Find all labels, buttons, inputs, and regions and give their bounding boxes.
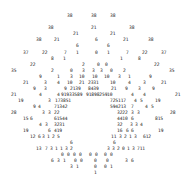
number-label: 3 — [138, 86, 141, 91]
number-label: 2 — [51, 68, 54, 73]
number-label: 0 — [95, 152, 98, 157]
number-label: 4 — [131, 92, 134, 97]
number-label: 38 — [91, 13, 96, 18]
number-label: 3222 — [117, 110, 128, 115]
number-label: 3 — [44, 86, 47, 91]
number-label: 3 — [100, 68, 103, 73]
number-label: 6 — [38, 134, 41, 139]
number-label: 7 — [131, 104, 134, 109]
number-label: 8 — [51, 56, 54, 61]
number-label: 419 — [54, 128, 62, 133]
number-label: 2 — [52, 134, 55, 139]
number-grid-figure: 3838383821382121382162138663722710172237… — [0, 0, 189, 183]
number-label: 3 — [134, 134, 137, 139]
number-label: 1 — [57, 74, 60, 79]
number-label: 1 — [55, 146, 58, 151]
number-label: 28 — [170, 110, 175, 115]
number-label: 21 — [79, 80, 84, 85]
number-label: 1 — [120, 56, 123, 61]
number-label: 21 — [54, 37, 59, 42]
number-label: 21 — [110, 31, 115, 36]
number-label: 22 — [154, 62, 159, 67]
number-label: 1 — [76, 164, 79, 169]
number-label: 19 — [155, 98, 160, 103]
number-label: 0 — [106, 158, 109, 163]
number-label: 21 — [123, 37, 128, 42]
number-label: 19 — [18, 98, 23, 103]
number-label: 15 — [23, 116, 28, 121]
number-label: 4 — [39, 92, 42, 97]
number-label: 2 — [123, 68, 126, 73]
number-label: 3 — [48, 110, 51, 115]
number-label: 0 — [79, 152, 82, 157]
number-label: 10 — [67, 80, 72, 85]
number-label: 6 — [70, 140, 73, 145]
number-label: 11 — [111, 134, 116, 139]
number-label: 21 — [111, 86, 116, 91]
number-label: 38 — [148, 37, 153, 42]
number-label: 91898259 — [86, 92, 107, 97]
number-label: 21 — [161, 80, 166, 85]
number-label: 22 — [30, 62, 35, 67]
number-label: 3 — [112, 146, 115, 151]
number-label: 37 — [23, 50, 28, 55]
number-label: 10 — [107, 92, 112, 97]
number-label: 3 — [107, 146, 110, 151]
number-label: 10 — [79, 74, 84, 79]
number-label: 0 — [73, 152, 76, 157]
number-label: 22 — [142, 50, 147, 55]
number-label: 3 — [70, 74, 73, 79]
number-label: 5 — [151, 104, 154, 109]
number-label: 3 — [125, 158, 128, 163]
number-label: 8439 — [88, 86, 99, 91]
number-label: 3 — [119, 134, 122, 139]
number-label: 3 — [143, 80, 146, 85]
number-label: 725117 — [110, 98, 126, 103]
number-label: 2139 — [70, 86, 81, 91]
number-label: 4 — [39, 122, 42, 127]
number-label: 3 — [45, 122, 48, 127]
number-label: 38 — [48, 25, 53, 30]
number-label: 3 — [137, 110, 140, 115]
number-label: 9 — [64, 86, 67, 91]
number-label: 7 — [126, 50, 129, 55]
number-label: 12 — [30, 134, 35, 139]
number-label: 0 — [104, 152, 107, 157]
number-label: 0 — [89, 152, 92, 157]
number-label: 21 — [73, 31, 78, 36]
number-label: 21 — [91, 25, 96, 30]
number-label: 2 — [117, 146, 120, 151]
number-label: 6 — [131, 158, 134, 163]
number-label: 21 — [175, 92, 180, 97]
number-label: 10 — [104, 74, 109, 79]
number-label: 6 — [48, 128, 51, 133]
number-label: 6 — [131, 128, 134, 133]
number-label: 3 — [131, 110, 134, 115]
number-label: 0 — [105, 62, 108, 67]
number-label: 22 — [42, 50, 47, 55]
number-label: 6 — [107, 43, 110, 48]
number-label: 9 — [125, 86, 128, 91]
number-label: 4 — [140, 122, 143, 127]
number-label: 71342 — [54, 104, 67, 109]
number-label: 0 — [67, 152, 70, 157]
number-label: 3 — [57, 158, 60, 163]
number-label: 612 — [143, 134, 151, 139]
number-label: 6 — [95, 37, 98, 42]
number-label: 0 — [80, 158, 83, 163]
number-label: 38 — [129, 25, 134, 30]
number-label: 0 — [110, 152, 113, 157]
number-label: 3 — [118, 74, 121, 79]
number-label: 2 — [70, 146, 73, 151]
number-label: 3 — [44, 80, 47, 85]
number-label: 0 — [74, 158, 77, 163]
number-label: 3 — [130, 122, 133, 127]
number-label: 10 — [92, 74, 97, 79]
number-label: 4410 — [117, 116, 128, 121]
number-label: 2 — [82, 62, 85, 67]
number-label: 3 — [82, 68, 85, 73]
number-label: 6 — [76, 43, 79, 48]
number-label: 35 — [11, 68, 16, 73]
number-label: 3 — [50, 146, 53, 151]
number-label: 0 — [94, 164, 97, 169]
